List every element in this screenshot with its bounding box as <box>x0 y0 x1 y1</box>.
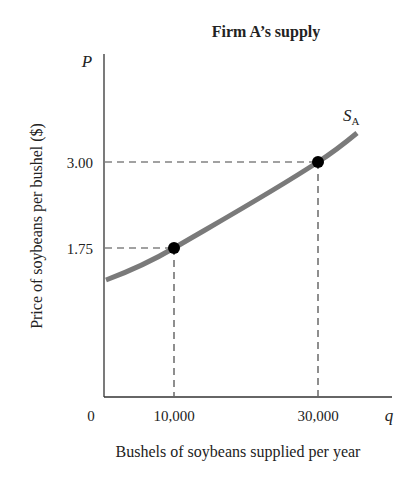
x-tick-10000: 10,000 <box>153 408 194 424</box>
supply-curve-sa <box>106 133 357 280</box>
supply-chart: Firm A’s supply P q 0 3.00 1.75 10,000 3… <box>0 0 417 483</box>
y-axis-symbol: P <box>81 52 92 71</box>
guide-lines <box>105 162 318 396</box>
y-tick-1-75: 1.75 <box>67 241 93 257</box>
point-30000-3-00 <box>312 156 324 168</box>
curve-label: SA <box>343 106 360 127</box>
x-axis-label: Bushels of soybeans supplied per year <box>116 443 362 461</box>
x-tick-30000: 30,000 <box>297 408 338 424</box>
x-axis-symbol: q <box>385 406 394 425</box>
chart-title: Firm A’s supply <box>212 23 320 41</box>
y-axis-label: Price of soybeans per bushel ($) <box>28 123 46 329</box>
point-10000-1-75 <box>168 242 180 254</box>
y-tick-3-00: 3.00 <box>67 155 93 171</box>
origin-label: 0 <box>87 408 95 424</box>
